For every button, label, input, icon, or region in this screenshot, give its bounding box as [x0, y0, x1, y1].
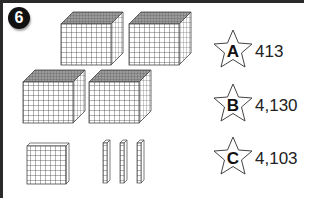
option-a-letter[interactable]: A	[223, 42, 243, 62]
option-b-value[interactable]: 4,130	[255, 96, 298, 116]
option-c-letter[interactable]: C	[223, 149, 243, 169]
thousands-cube	[89, 70, 151, 123]
option-c-value[interactable]: 4,103	[255, 149, 298, 169]
thousands-cube	[23, 70, 85, 123]
hundreds-flat	[27, 143, 69, 184]
tens-rod	[103, 140, 110, 183]
tens-rod	[120, 140, 127, 183]
thousands-cube	[61, 12, 123, 65]
tens-rod	[137, 140, 144, 183]
option-b-letter[interactable]: B	[223, 96, 243, 116]
thousands-cube	[129, 12, 191, 65]
option-a-value[interactable]: 413	[255, 42, 283, 62]
